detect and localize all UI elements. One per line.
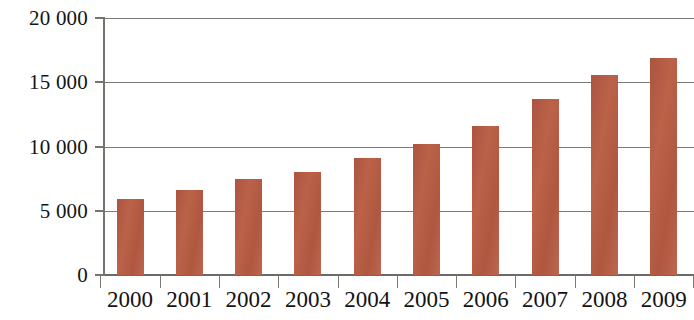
y-tick-label: 10 000 [0, 136, 88, 157]
bar-2003 [294, 172, 321, 275]
bar-2004 [354, 158, 381, 275]
y-tick-mark-15000 [95, 81, 105, 83]
y-tick-mark-20000 [95, 17, 105, 19]
y-axis: 05 00010 00015 00020 000 [0, 0, 88, 290]
x-axis-labels: 2000200120022003200420052006200720082009 [0, 286, 694, 320]
bar-2008 [591, 75, 618, 275]
y-tick-label: 5 000 [0, 200, 88, 221]
plot-area [95, 0, 694, 290]
bar-2000 [117, 199, 144, 275]
y-tick-label: 15 000 [0, 72, 88, 93]
y-tick-label: 20 000 [0, 8, 88, 29]
bar-2009 [650, 58, 677, 275]
bar-2002 [235, 179, 262, 275]
y-tick-mark-10000 [95, 146, 105, 148]
y-tick-label: 0 [0, 265, 88, 286]
bar-2001 [176, 190, 203, 275]
bar-2005 [413, 144, 440, 275]
bar-2007 [532, 99, 559, 275]
bar-chart: 05 00010 00015 00020 000 200020012002200… [0, 0, 694, 320]
y-tick-mark-5000 [95, 210, 105, 212]
gridline-20000 [104, 18, 694, 19]
x-tick-label: 2009 [628, 286, 694, 315]
bar-2006 [472, 126, 499, 275]
